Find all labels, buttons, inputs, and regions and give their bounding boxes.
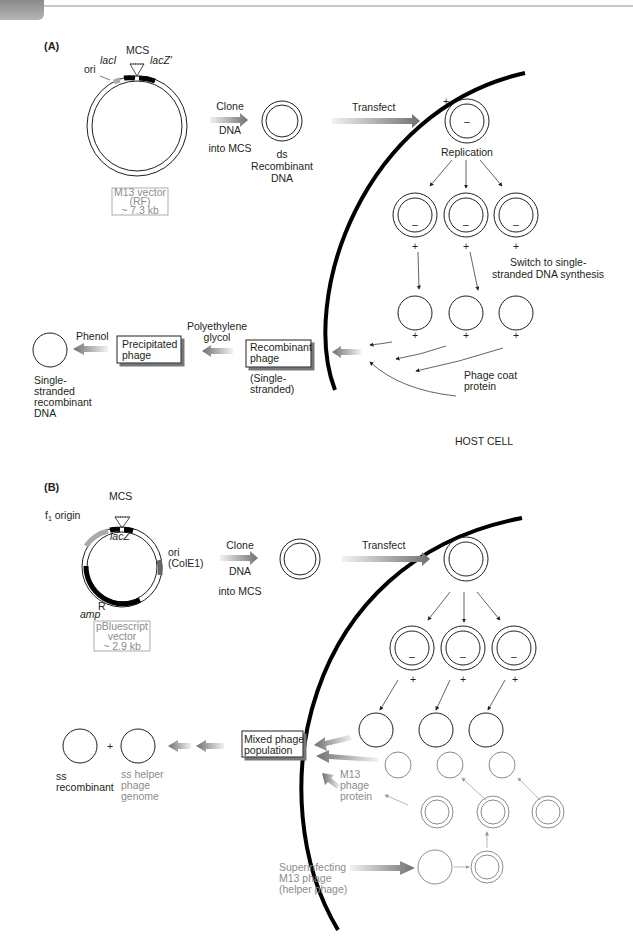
ss-circle-row-a xyxy=(398,296,533,330)
minus-sign: – xyxy=(511,650,517,662)
minus-sign: – xyxy=(463,218,469,230)
plus-sign: + xyxy=(512,673,518,685)
single-stranded-note2: stranded) xyxy=(250,383,294,395)
helper-ds-row xyxy=(418,796,564,884)
ss-helper-line3: genome xyxy=(121,790,159,802)
mixed-out-arrow-2 xyxy=(196,740,224,752)
recombinant-label: Recombinant xyxy=(251,160,313,172)
ss-recombinant-dna-circle xyxy=(33,333,67,367)
ori-label-a: ori xyxy=(84,63,96,75)
mixed-arrow-1 xyxy=(314,735,352,751)
plus-sign: + xyxy=(513,240,519,252)
plus-sign: + xyxy=(410,673,416,685)
minus-sign: – xyxy=(460,650,466,662)
mcs-label-a: MCS xyxy=(126,44,149,56)
minus-sign: – xyxy=(513,218,519,230)
mixed-population-line2: population xyxy=(244,744,293,756)
peg-arrow xyxy=(202,345,233,357)
plus-strand-sign: + xyxy=(443,95,449,107)
mcs-label-b: MCS xyxy=(109,490,132,502)
host-cell-label: HOST CELL xyxy=(455,435,513,447)
plus-join: + xyxy=(107,740,113,752)
transfect-label-a: Transfect xyxy=(352,101,395,113)
plus-sign: + xyxy=(513,329,519,341)
mixed-arrow-2 xyxy=(316,750,378,763)
clone-into-mcs-a: into MCS xyxy=(208,142,251,154)
phenol-label: Phenol xyxy=(76,330,109,342)
peg-label-line2: glycol xyxy=(204,331,231,343)
lacz-label-b: lacZ xyxy=(110,530,130,542)
panel-b-label: (B) xyxy=(44,481,60,493)
ss-recombinant-line2: recombinant xyxy=(56,781,114,793)
clone-into-mcs-b: into MCS xyxy=(218,585,261,597)
ds-circle-row-a xyxy=(393,193,538,237)
plus-sign: + xyxy=(412,329,418,341)
clone-label-a: Clone xyxy=(216,100,244,112)
m13-vector-size: ~ 7.3 kb xyxy=(121,204,159,216)
lacz-prime-label: lacZ' xyxy=(150,54,173,66)
transfect-arrow-a xyxy=(332,114,420,128)
ss-recombinant-circle xyxy=(63,729,97,763)
replicating-circle-b xyxy=(444,537,488,581)
clone-dna-a: DNA xyxy=(219,124,241,136)
superinfecting-line3: (helper phage) xyxy=(279,883,347,895)
transfect-arrow-b xyxy=(342,552,430,566)
plus-sign: + xyxy=(463,329,469,341)
clone-dna-b: DNA xyxy=(229,565,251,577)
ss-helper-circle xyxy=(121,729,155,763)
cole1-label: (ColE1) xyxy=(168,557,204,569)
recombinant-phage-line2: phage xyxy=(250,352,279,364)
exit-arrow-a xyxy=(332,346,361,358)
minus-strand-sign: – xyxy=(464,115,470,127)
clone-arrow-b xyxy=(220,551,258,565)
minus-sign: – xyxy=(409,650,415,662)
plus-sign: + xyxy=(412,240,418,252)
panel-a-label: (A) xyxy=(44,40,60,52)
plus-sign: + xyxy=(460,673,466,685)
m13-vector-plasmid xyxy=(87,64,187,176)
superinfect-arrow xyxy=(350,861,415,875)
ds-label: ds xyxy=(276,148,287,160)
ss-helper-row-b xyxy=(385,752,515,778)
switch-label-line1: Switch to single- xyxy=(510,256,587,268)
m13-protein-line3: protein xyxy=(340,790,372,802)
laci-label: lacI xyxy=(100,54,116,66)
phenol-arrow xyxy=(73,343,108,355)
clone-label-b: Clone xyxy=(226,539,254,551)
amp-resistance-sup: R xyxy=(98,600,106,612)
f1-origin-label: f1 origin xyxy=(45,509,81,522)
phage-coat-line2: protein xyxy=(464,380,496,392)
replication-label: Replication xyxy=(441,146,493,158)
minus-sign: – xyxy=(412,218,418,230)
ds-circle-row-b xyxy=(390,626,536,670)
phage-cloning-diagram: (A) MCS lacI lacZ' ori M13 vector (RF) ~… xyxy=(0,0,633,948)
plus-sign: + xyxy=(463,240,469,252)
pbluescript-size: ~ 2.9 kb xyxy=(103,640,141,652)
mixed-out-arrow-1 xyxy=(168,740,191,752)
mixed-arrow-3 xyxy=(322,773,340,789)
dna-label: DNA xyxy=(271,172,293,184)
ds-recombinant-b xyxy=(280,539,320,579)
ds-recombinant-dna xyxy=(262,101,302,141)
ss-dna-line4: DNA xyxy=(34,407,56,419)
transfect-label-b: Transfect xyxy=(362,539,405,551)
precipitated-phage-line2: phage xyxy=(122,349,151,361)
switch-label-line2: stranded DNA synthesis xyxy=(492,268,604,280)
ss-recombinant-row-b xyxy=(359,713,503,747)
